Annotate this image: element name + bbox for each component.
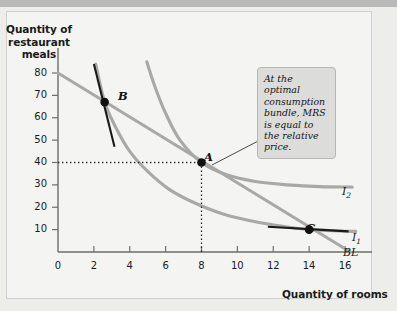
curve-label-i2-subscript: 2 [346,191,351,200]
curve-label-i2: I2 [342,185,351,200]
y-tick-label: 40 [27,156,47,167]
data-point-b [100,98,109,107]
x-tick-label: 14 [299,260,319,271]
x-tick-label: 0 [48,260,68,271]
annotation-callout: At the optimal consumption bundle, MRS i… [257,67,336,159]
x-tick-label: 8 [192,260,212,271]
point-label-b: B [118,89,128,103]
figure-container: Quantity of restaurant meals Quantity of… [0,0,397,311]
y-tick-label: 30 [27,178,47,189]
y-tick-label: 80 [27,67,47,78]
y-tick-label: 20 [27,201,47,212]
annotation-leader-line [212,139,262,165]
x-tick-label: 10 [227,260,247,271]
y-tick-label: 60 [27,111,47,122]
point-label-c: C [306,221,315,235]
y-tick-label: 10 [27,223,47,234]
y-tick-label: 50 [27,134,47,145]
curve-label-i1-subscript: 1 [356,237,361,246]
x-axis-title: Quantity of rooms [282,288,397,301]
curve-label-bl: BL [343,246,358,259]
x-tick-label: 12 [263,260,283,271]
point-label-a: A [204,150,213,164]
y-tick-label: 70 [27,89,47,100]
x-tick-label: 4 [120,260,140,271]
x-tick-label: 16 [335,260,355,271]
x-tick-label: 2 [84,260,104,271]
curve-label-i1: I1 [352,231,361,246]
y-axis-title: Quantity of restaurant meals [3,23,75,61]
x-tick-label: 6 [156,260,176,271]
